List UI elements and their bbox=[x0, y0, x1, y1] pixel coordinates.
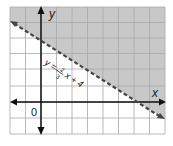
origin-label: 0 bbox=[31, 106, 37, 118]
x-axis-label: x bbox=[151, 86, 159, 100]
svg-text:x + 4: x + 4 bbox=[62, 70, 85, 90]
x-axis-arrow-left-icon bbox=[10, 99, 17, 106]
y-axis-label: y bbox=[48, 7, 56, 21]
graph: y x 0 y = 2 3 − x + 4 bbox=[0, 0, 173, 146]
